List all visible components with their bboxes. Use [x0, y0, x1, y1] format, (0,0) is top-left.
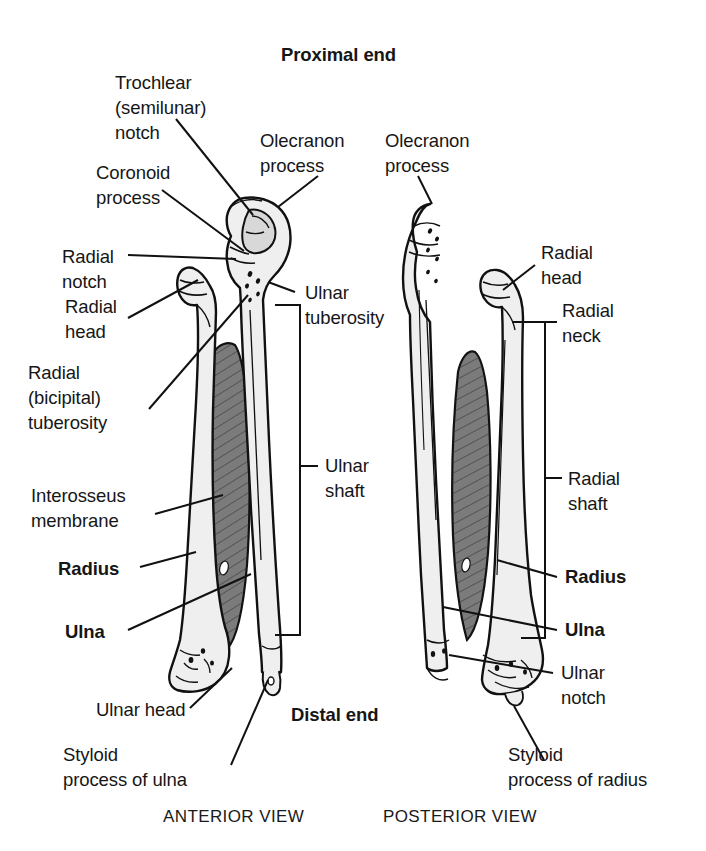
label-radial-shaft: Radial shaft [568, 466, 620, 516]
label-ulnar-head: Ulnar head [96, 697, 186, 722]
leader-olecranon-process-anterior [278, 176, 318, 207]
caption-posterior-view: POSTERIOR VIEW [383, 807, 537, 827]
bracket-ulnar-shaft [275, 305, 300, 635]
leader-radial-notch [128, 255, 236, 259]
label-interosseus-membrane: Interosseus membrane [31, 483, 126, 533]
label-radial-head: Radial head [65, 294, 117, 344]
label-radial-notch: Radial notch [62, 244, 114, 294]
label-trochlear-notch: Trochlear (semilunar) notch [115, 70, 206, 145]
label-radius-posterior: Radius [565, 564, 626, 589]
label-ulna-anterior: Ulna [65, 619, 105, 644]
label-ulnar-notch: Ulnar notch [561, 660, 606, 710]
label-radius-anterior: Radius [58, 556, 119, 581]
label-radial-neck: Radial neck [562, 298, 614, 348]
label-radial-head-posterior: Radial head [541, 240, 593, 290]
page-title-distal-end: Distal end [291, 702, 378, 727]
label-ulna-posterior: Ulna [565, 617, 605, 642]
figure-forearm-bones: Proximal end Distal end Trochlear (semil… [0, 0, 706, 851]
ulna-posterior [403, 204, 449, 680]
label-styloid-process-of-ulna: Styloid process of ulna [63, 742, 187, 792]
label-styloid-process-of-radius: Styloid process of radius [508, 742, 647, 792]
label-ulnar-tuberosity: Ulnar tuberosity [305, 280, 384, 330]
leader-olecranon-process-posterior [418, 176, 432, 204]
label-olecranon-process-posterior: Olecranon process [385, 128, 469, 178]
label-ulnar-shaft: Ulnar shaft [325, 453, 369, 503]
label-olecranon-process-anterior: Olecranon process [260, 128, 344, 178]
label-radial-bicipital-tuberosity: Radial (bicipital) tuberosity [28, 360, 107, 435]
posterior-specimen [403, 204, 543, 705]
anterior-specimen [169, 197, 290, 695]
leader-styloid-process-of-ulna [231, 680, 268, 765]
label-coronoid-process: Coronoid process [96, 160, 170, 210]
interosseus-membrane-posterior [452, 351, 490, 640]
page-title-proximal-end: Proximal end [281, 42, 396, 67]
leader-ulnar-tuberosity [268, 282, 295, 292]
caption-anterior-view: ANTERIOR VIEW [163, 807, 304, 827]
